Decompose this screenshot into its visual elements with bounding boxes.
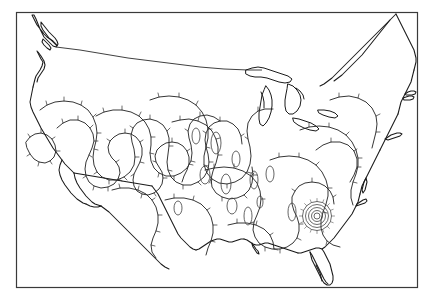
map-canvas [0, 0, 434, 301]
contour-map-figure [0, 0, 434, 301]
map-background [0, 0, 434, 301]
